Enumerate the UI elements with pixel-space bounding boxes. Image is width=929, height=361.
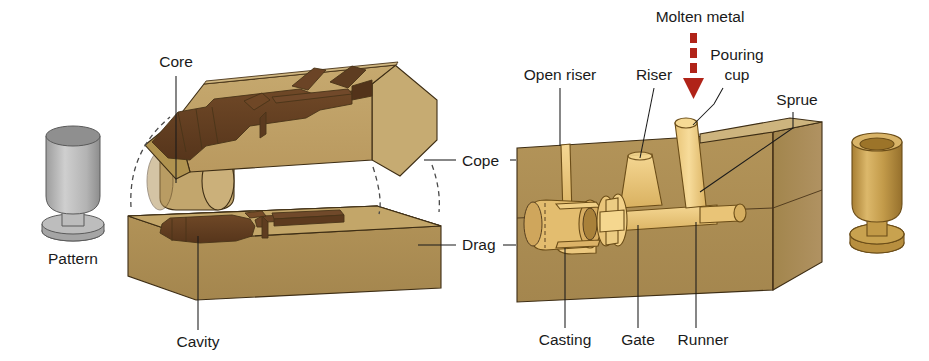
label-cope: Cope bbox=[462, 152, 499, 169]
label-molten-metal: Molten metal bbox=[656, 8, 745, 25]
pattern-group: Pattern bbox=[42, 126, 104, 267]
label-sprue: Sprue bbox=[776, 91, 817, 108]
molten-metal-arrow bbox=[683, 33, 704, 99]
finished-body bbox=[852, 142, 902, 222]
drag-group: Cavity bbox=[128, 206, 441, 350]
pattern-body bbox=[46, 136, 100, 214]
label-riser: Riser bbox=[636, 66, 672, 83]
finished-bore bbox=[860, 138, 894, 150]
finished-casting-group bbox=[850, 133, 904, 253]
casting-far-end bbox=[524, 202, 542, 246]
figure-canvas: Pattern Cavity bbox=[0, 0, 929, 361]
label-pouring-cup-line2: cup bbox=[725, 66, 750, 83]
label-drag: Drag bbox=[462, 236, 496, 253]
cope-right-end-face bbox=[372, 65, 437, 176]
label-gate: Gate bbox=[621, 331, 655, 348]
label-casting: Casting bbox=[539, 331, 592, 348]
casting-bore bbox=[583, 208, 597, 240]
molten-metal-arrow-dash-3 bbox=[690, 63, 697, 73]
drag-cavity-bowl bbox=[160, 215, 255, 243]
pouring-cup-basin bbox=[675, 118, 697, 128]
molten-metal-arrow-dash-2 bbox=[690, 48, 697, 58]
label-pouring-cup-line1: Pouring bbox=[710, 46, 763, 63]
casting-diagram-svg: Pattern Cavity bbox=[0, 0, 929, 361]
molten-metal-arrow-dash-1 bbox=[690, 33, 697, 43]
leader-pouring-cup bbox=[693, 88, 723, 125]
label-core: Core bbox=[159, 53, 193, 70]
gate-throat bbox=[600, 210, 624, 232]
label-cavity: Cavity bbox=[176, 333, 219, 350]
label-pattern: Pattern bbox=[48, 250, 98, 267]
close-arc-right bbox=[432, 165, 439, 212]
label-open-riser: Open riser bbox=[524, 66, 596, 83]
assembled-mold-group bbox=[517, 118, 822, 302]
runner-end-cap bbox=[734, 204, 746, 222]
molten-metal-arrow-head bbox=[683, 78, 704, 99]
pattern-top-face bbox=[46, 126, 100, 146]
label-runner: Runner bbox=[678, 331, 729, 348]
mold-right-face bbox=[773, 122, 822, 290]
